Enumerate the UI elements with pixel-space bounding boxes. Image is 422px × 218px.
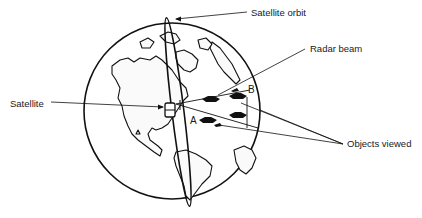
arctic-island-2	[140, 38, 154, 48]
object-ship-3	[229, 112, 247, 118]
greenland	[176, 50, 198, 72]
label-objects-viewed: Objects viewed	[347, 138, 411, 149]
arctic-islands	[160, 32, 180, 44]
objects-viewed	[199, 88, 247, 127]
point-label-a: A	[190, 115, 197, 126]
object-small-2	[231, 88, 239, 92]
north-america	[112, 56, 188, 156]
object-ship-a	[199, 117, 217, 123]
orbit-leader	[176, 12, 247, 19]
europe	[210, 42, 240, 84]
label-satellite: Satellite	[10, 98, 44, 109]
label-satellite-orbit: Satellite orbit	[251, 7, 306, 18]
object-ship-1	[202, 96, 220, 102]
satellite-radar-diagram: A B Satellite orbit Radar beam Satellite…	[0, 0, 422, 218]
orbit-arrowhead	[175, 17, 181, 22]
leader-lines	[51, 12, 343, 144]
point-label-b: B	[248, 84, 255, 95]
objects-leader-3	[260, 110, 343, 144]
label-radar-beam: Radar beam	[310, 43, 362, 54]
objects-leader-2	[219, 125, 343, 144]
